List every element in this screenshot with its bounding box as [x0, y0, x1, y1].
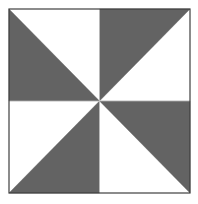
figure-canvas [0, 0, 198, 204]
pinwheel-figure [0, 0, 198, 204]
